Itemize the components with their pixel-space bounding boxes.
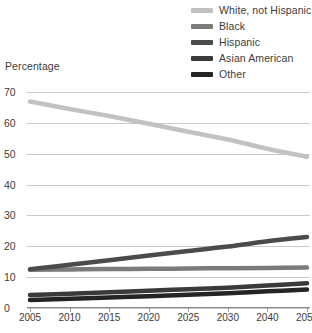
series-line [30, 268, 307, 270]
y-axis-tick-label: 10 [4, 271, 24, 283]
line-chart: White, not HispanicBlackHispanicAsian Am… [0, 0, 312, 333]
legend-item-label: Asian American [219, 51, 293, 65]
legend-item[interactable]: Hispanic [191, 35, 311, 49]
x-axis-tick-label: 2020 [138, 312, 160, 323]
y-axis-tick-label: 50 [4, 148, 24, 160]
series-lines [27, 92, 310, 308]
legend-item-label: Other [219, 67, 246, 81]
y-axis-tick-label: 60 [4, 117, 24, 129]
legend-item-label: White, not Hispanic [219, 3, 311, 17]
x-axis-tick-label: 2050 [296, 312, 312, 323]
y-axis-tick-label: 40 [4, 179, 24, 191]
legend-item[interactable]: White, not Hispanic [191, 3, 311, 17]
y-axis-tick-label: 30 [4, 209, 24, 221]
legend-swatch-icon [191, 8, 213, 13]
x-axis-tick-label: 2030 [217, 312, 239, 323]
y-axis-tick-label: 70 [4, 86, 24, 98]
legend-swatch-icon [191, 72, 213, 77]
y-axis-title: Percentage [5, 60, 60, 72]
y-axis-tick-label: 20 [4, 240, 24, 252]
x-axis-tick-label: 2040 [256, 312, 278, 323]
legend-item[interactable]: Asian American [191, 51, 311, 65]
plot-area [27, 92, 310, 308]
x-axis-tick-label: 2015 [98, 312, 120, 323]
legend-swatch-icon [191, 24, 213, 29]
legend-item-label: Black [219, 19, 245, 33]
y-axis-tick-labels: 010203040506070 [3, 92, 24, 308]
x-axis-tick-label: 2005 [19, 312, 41, 323]
series-line [30, 102, 307, 157]
legend-swatch-icon [191, 56, 213, 61]
legend-swatch-icon [191, 40, 213, 45]
x-axis-tick-labels: 20052010201520202025203020402050 [27, 312, 310, 328]
legend-item-label: Hispanic [219, 35, 260, 49]
series-line [30, 237, 307, 269]
chart-legend: White, not HispanicBlackHispanicAsian Am… [191, 3, 311, 81]
legend-item[interactable]: Other [191, 67, 311, 81]
x-axis-tick-label: 2010 [58, 312, 80, 323]
x-axis-tick-label: 2025 [177, 312, 199, 323]
legend-item[interactable]: Black [191, 19, 311, 33]
